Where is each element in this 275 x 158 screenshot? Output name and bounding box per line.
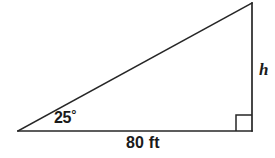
- angle-value: 25: [54, 109, 71, 126]
- height-variable-label: h: [259, 61, 268, 78]
- angle-label: 25°: [54, 108, 76, 126]
- degree-symbol-icon: °: [71, 107, 76, 122]
- right-angle-marker-icon: [236, 115, 252, 131]
- base-length-label: 80 ft: [126, 135, 160, 151]
- right-triangle-diagram: 25° 80 ft h: [0, 0, 275, 158]
